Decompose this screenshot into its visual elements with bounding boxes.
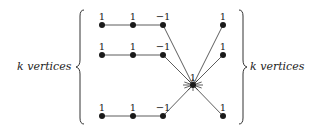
vertex-label: 1: [220, 11, 226, 22]
graph-diagram: k vertices k vertices 11−1111−1111−111: [0, 0, 317, 131]
vertex: [99, 113, 105, 119]
vertex-label: −1: [156, 102, 171, 113]
right-brace: [239, 10, 247, 124]
vertex: [130, 22, 136, 28]
vertex-label: 1: [130, 11, 136, 22]
vertex: [130, 52, 136, 58]
vertex: [220, 22, 226, 28]
left-brace: [76, 10, 84, 124]
vertex: [160, 52, 166, 58]
left-brace-label: k vertices: [17, 60, 72, 73]
vertex-label: 1: [220, 102, 226, 113]
vertex-label: 1: [99, 11, 105, 22]
vertex-label: 1: [99, 102, 105, 113]
vertex: [99, 52, 105, 58]
vertex-label: −1: [156, 11, 171, 22]
vertex-label: −1: [156, 41, 171, 52]
vertex: [99, 22, 105, 28]
nodes: 11−1111−1111−111: [99, 11, 226, 119]
vertex-label: 1: [130, 41, 136, 52]
edge: [193, 25, 223, 85]
vertex: [160, 113, 166, 119]
vertex-label: 1: [190, 72, 196, 83]
vertex-label: 1: [220, 41, 226, 52]
vertex: [160, 22, 166, 28]
edge: [163, 25, 193, 85]
vertex: [220, 52, 226, 58]
right-brace-label: k vertices: [250, 60, 305, 73]
vertex: [130, 113, 136, 119]
vertex: [220, 113, 226, 119]
vertex-label: 1: [130, 102, 136, 113]
vertex-label: 1: [99, 41, 105, 52]
